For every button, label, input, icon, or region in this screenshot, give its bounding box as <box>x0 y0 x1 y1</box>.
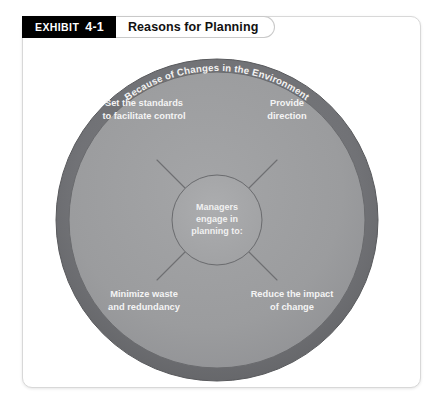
reasons-for-planning-diagram: Because of Changes in the Environment Ma… <box>22 16 421 388</box>
exhibit-tab-word: EXHIBIT <box>35 21 79 33</box>
exhibit-number-tab: EXHIBIT 4-1 <box>22 16 116 38</box>
core-line-2: engage in <box>196 214 238 224</box>
exhibit-title: Reasons for Planning <box>128 20 259 34</box>
reason-minimize-waste-line-2: and redundancy <box>108 302 181 312</box>
exhibit-tab-number: 4-1 <box>85 20 104 34</box>
core-line-3: planning to: <box>191 226 243 236</box>
reason-reduce-impact-line-1: Reduce the impact <box>251 289 334 299</box>
diagram-container: Because of Changes in the Environment Ma… <box>22 16 421 388</box>
reason-set-standards-line-1: Set the standards <box>105 98 183 108</box>
core-line-1: Managers <box>196 202 238 212</box>
exhibit-header: EXHIBIT 4-1 Reasons for Planning <box>22 16 275 38</box>
exhibit-title-capsule: Reasons for Planning <box>116 16 276 38</box>
reason-reduce-impact-line-2: of change <box>270 302 314 312</box>
reason-set-standards-line-2: to facilitate control <box>102 111 185 121</box>
reason-provide-direction-line-2: direction <box>267 111 307 121</box>
reason-provide-direction-line-1: Provide <box>270 98 304 108</box>
reason-minimize-waste-line-1: Minimize waste <box>110 289 178 299</box>
core-text-group: Managers engage in planning to: <box>191 202 243 236</box>
